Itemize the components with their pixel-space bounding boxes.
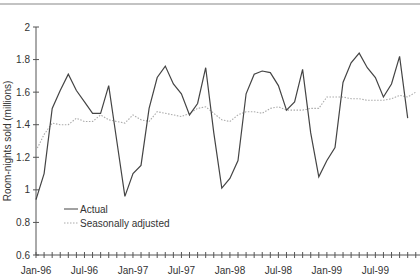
series-seasonally-adjusted [36, 92, 416, 151]
y-tick-label: 0.8 [16, 217, 30, 228]
x-tick-label: Jul-96 [71, 265, 99, 276]
legend: Actual Seasonally adjusted [64, 204, 170, 229]
x-tick-label: Jul-97 [168, 265, 196, 276]
x-tick-label: Jan-98 [215, 265, 246, 276]
legend-label-seasonally-adjusted: Seasonally adjusted [80, 218, 170, 229]
y-tick-label: 0.6 [16, 250, 30, 261]
x-tick-label: Jul-98 [265, 265, 293, 276]
y-axis: 0.60.811.21.41.61.82 [16, 22, 39, 261]
y-axis-title: Room-nights sold (millions) [2, 81, 13, 202]
line-chart: 0.60.811.21.41.61.82 Jan-96Jul-96Jan-97J… [0, 0, 420, 280]
y-tick-label: 1.2 [16, 152, 30, 163]
x-tick-label: Jul-99 [362, 265, 390, 276]
y-tick-label: 2 [24, 22, 30, 33]
y-tick-label: 1.6 [16, 87, 30, 98]
y-tick-label: 1.8 [16, 54, 30, 65]
y-tick-label: 1.4 [16, 119, 30, 130]
x-tick-label: Jan-99 [312, 265, 343, 276]
y-tick-label: 1 [24, 184, 30, 195]
x-tick-label: Jan-96 [21, 265, 52, 276]
series-layer [36, 53, 416, 200]
x-tick-label: Jan-97 [118, 265, 149, 276]
series-actual [36, 53, 408, 200]
legend-label-actual: Actual [80, 204, 108, 215]
x-axis: Jan-96Jul-96Jan-97Jul-97Jan-98Jul-98Jan-… [21, 252, 420, 276]
